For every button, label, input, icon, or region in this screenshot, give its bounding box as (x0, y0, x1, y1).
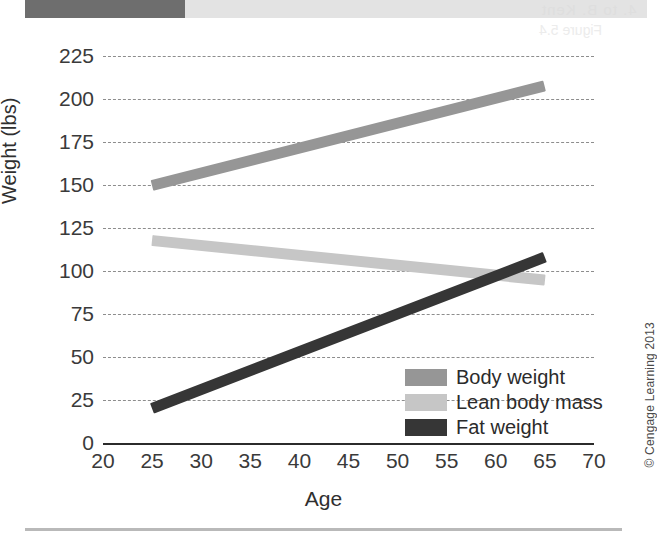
legend-swatch-icon (405, 419, 447, 436)
x-tick-label-50: 50 (375, 450, 421, 471)
page-header-bar-dark (25, 0, 185, 18)
legend-swatch-icon (405, 369, 447, 386)
x-tick-label-35: 35 (227, 450, 273, 471)
x-axis-line (103, 443, 594, 445)
x-tick-label-20: 20 (80, 450, 126, 471)
gridline-y-200 (103, 99, 594, 100)
chart-figure: Weight (lbs) 2252001751501251007550250 2… (0, 22, 647, 500)
x-tick-label-45: 45 (326, 450, 372, 471)
page-bottom-rule (25, 528, 622, 531)
y-tick-label-125: 125 (59, 217, 94, 238)
y-tick-label-75: 75 (71, 303, 94, 324)
x-tick-label-30: 30 (178, 450, 224, 471)
y-tick-label-150: 150 (59, 174, 94, 195)
x-tick-label-70: 70 (571, 450, 617, 471)
legend-item-lean-body-mass: Lean body mass (405, 390, 595, 414)
legend-label: Body weight (456, 367, 565, 387)
gridline-y-225 (103, 56, 594, 57)
y-tick-label-50: 50 (71, 346, 94, 367)
x-axis-title: Age (0, 487, 647, 511)
y-axis-title: Weight (lbs) (0, 98, 21, 204)
x-tick-label-55: 55 (424, 450, 470, 471)
gridline-y-50 (103, 357, 594, 358)
x-tick-label-60: 60 (473, 450, 519, 471)
page-scan-artifacts: 4. to B. Kent Figure 5.4 (0, 0, 647, 22)
legend-swatch-icon (405, 394, 447, 411)
legend-item-body-weight: Body weight (405, 365, 595, 389)
y-tick-label-100: 100 (59, 260, 94, 281)
copyright-credit: © Cengage Learning 2013 (643, 322, 657, 468)
gridline-y-150 (103, 185, 594, 186)
y-tick-label-25: 25 (71, 389, 94, 410)
legend-item-fat-weight: Fat weight (405, 415, 595, 439)
bleed-through-text-primary: 4. to B. Kent (541, 1, 637, 18)
gridline-y-175 (103, 142, 594, 143)
x-tick-label-40: 40 (276, 450, 322, 471)
y-tick-label-200: 200 (59, 88, 94, 109)
x-tick-label-65: 65 (522, 450, 568, 471)
x-axis-tick-labels: 2025303540455055606570 (103, 450, 594, 480)
y-axis-tick-labels: 2252001751501251007550250 (30, 56, 94, 443)
legend-label: Fat weight (456, 417, 548, 437)
chart-legend: Body weightLean body massFat weight (405, 365, 595, 440)
gridline-y-125 (103, 228, 594, 229)
gridline-y-75 (103, 314, 594, 315)
legend-label: Lean body mass (456, 392, 603, 412)
y-tick-label-225: 225 (59, 45, 94, 66)
y-tick-label-175: 175 (59, 131, 94, 152)
x-tick-label-25: 25 (129, 450, 175, 471)
series-line-body-weight (151, 80, 547, 190)
